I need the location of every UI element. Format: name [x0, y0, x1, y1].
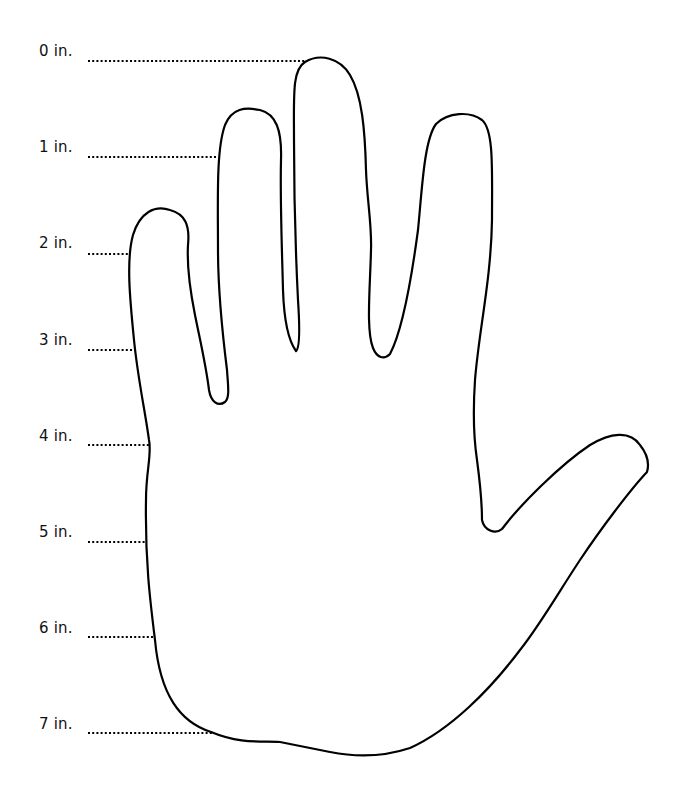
ruler-guide-lines [88, 61, 306, 733]
hand-outline-icon [129, 58, 648, 756]
hand-outline-figure [0, 0, 687, 794]
